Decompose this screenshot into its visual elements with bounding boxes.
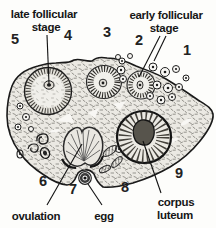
egg-cell [79, 172, 92, 185]
corpus-luteum [117, 111, 171, 163]
stage-number-8: 8 [121, 179, 129, 195]
stage-number-3: 3 [103, 24, 111, 40]
label-late-follicular-line1: late follicular [11, 8, 77, 20]
label-early-follicular-line1: early follicular [129, 9, 202, 21]
late-follicle [25, 68, 72, 115]
label-ovulation: ovulation [12, 210, 60, 222]
ovary-cycle-diagram: late follicular stage early follicular s… [0, 0, 216, 228]
stage-number-6: 6 [39, 173, 47, 189]
label-corpus-luteum-line2: luteum [157, 209, 193, 221]
mid-follicle [87, 66, 122, 99]
stage-number-9: 9 [175, 165, 183, 181]
label-corpus-luteum-line1: corpus [158, 196, 195, 208]
stage-number-5: 5 [11, 31, 19, 47]
label-early-follicular-line2: stage [150, 22, 179, 34]
label-egg: egg [94, 210, 114, 222]
stage-number-7: 7 [69, 181, 77, 197]
label-late-follicular-line2: stage [32, 21, 61, 33]
leader-egg [88, 184, 102, 205]
stage-number-2: 2 [135, 32, 143, 48]
ovulation-site [62, 127, 103, 168]
leader-early-follicular-right [154, 36, 166, 61]
stage-number-4: 4 [64, 27, 72, 43]
stage-number-1: 1 [183, 42, 191, 58]
